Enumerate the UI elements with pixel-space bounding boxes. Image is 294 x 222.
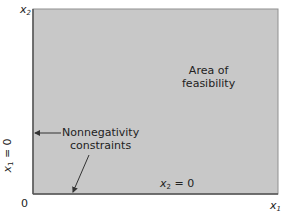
feasible-region	[33, 9, 278, 194]
x-axis-label: x1	[270, 199, 281, 216]
area-of-feasibility-label: Area of feasibility	[182, 64, 235, 90]
y-axis-label: x2	[20, 3, 31, 20]
feasibility-diagram: x2 x1 0 Area of feasibility Nonnegativit…	[0, 0, 294, 222]
nonnegativity-constraints-label: Nonnegativity constraints	[62, 126, 139, 152]
origin-label: 0	[21, 197, 28, 210]
x1-equals-zero-label: x1 = 0	[1, 138, 18, 172]
x2-equals-zero-label: x2 = 0	[160, 177, 194, 194]
feasible-region-plot	[0, 0, 294, 222]
